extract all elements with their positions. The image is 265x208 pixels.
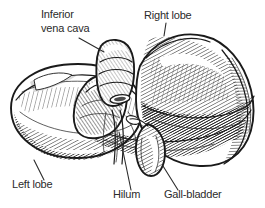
leader-left-lobe — [34, 160, 44, 180]
label-left-lobe: Left lobe — [12, 178, 52, 190]
leader-gall-bladder — [163, 166, 178, 190]
label-hilum: Hilum — [113, 188, 140, 200]
leader-right-lobe — [164, 23, 166, 36]
label-right-lobe: Right lobe — [144, 9, 192, 21]
liver-illustration: Inferior vena cava Right lobe Left lobe … — [0, 0, 265, 208]
label-inferior-vena-cava-line1: Inferior — [41, 8, 74, 20]
liver-diagram-figure: Inferior vena cava Right lobe Left lobe … — [0, 0, 265, 208]
label-gall-bladder: Gall-bladder — [164, 188, 222, 200]
label-inferior-vena-cava-line2: vena cava — [41, 22, 90, 34]
